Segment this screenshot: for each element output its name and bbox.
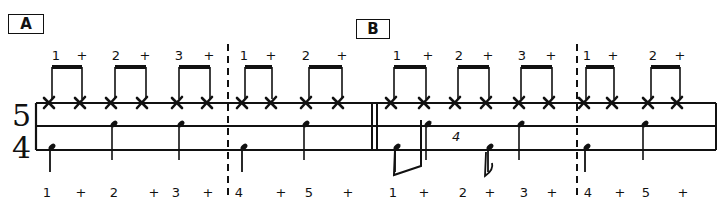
snare-notehead: [423, 119, 432, 128]
snare-notehead: [176, 119, 185, 128]
snare-notehead: [516, 119, 525, 128]
beat-count: +: [343, 185, 354, 200]
hihat-count: +: [546, 48, 557, 63]
hihat-count: 2: [302, 48, 310, 63]
hihat-count: 3: [518, 48, 526, 63]
hihat-count: +: [77, 48, 88, 63]
hihat-count: +: [608, 48, 619, 63]
hihat-count: 1: [393, 48, 401, 63]
hihat-count: +: [140, 48, 151, 63]
beat-count: +: [149, 185, 160, 200]
hihat-count: +: [337, 48, 348, 63]
hihat-count: 1: [583, 48, 591, 63]
time-signature-bottom: 4: [12, 130, 31, 165]
hihat-count: 2: [649, 48, 657, 63]
beat-count: 5: [642, 185, 650, 200]
hihat-count: 1: [240, 48, 248, 63]
beat-count: +: [547, 185, 558, 200]
beat-count: 3: [520, 185, 528, 200]
beat-count: 1: [43, 185, 51, 200]
snare-notehead: [640, 119, 649, 128]
hihat-count: +: [675, 48, 686, 63]
beat-count: +: [485, 185, 496, 200]
beat-count: 4: [235, 185, 243, 200]
hihat-count: +: [204, 48, 215, 63]
hihat-count: +: [483, 48, 494, 63]
beat-count: 1: [389, 185, 397, 200]
beat-count: 5: [305, 185, 313, 200]
beat-count: +: [419, 185, 430, 200]
hihat-count: 2: [112, 48, 120, 63]
beat-count: 3: [172, 185, 180, 200]
hihat-count: +: [423, 48, 434, 63]
beat-count: +: [203, 185, 214, 200]
time-signature-top: 5: [12, 98, 31, 133]
beat-count: 4: [584, 185, 592, 200]
hihat-count: 3: [175, 48, 183, 63]
annotation-4: 4: [452, 129, 460, 144]
snare-notehead: [301, 119, 310, 128]
beat-count: +: [276, 185, 287, 200]
snare-notehead: [109, 119, 118, 128]
beat-count: +: [678, 185, 689, 200]
hihat-count: +: [266, 48, 277, 63]
beat-count: +: [76, 185, 87, 200]
drum-notation-staff: 541+2+3+1+2+1+2+3+1+2+41+2+3+4+5+1+2+3+4…: [0, 0, 721, 205]
beat-count: 2: [459, 185, 467, 200]
beat-count: 2: [110, 185, 118, 200]
hihat-count: 1: [52, 48, 60, 63]
hihat-count: 2: [455, 48, 463, 63]
beat-count: +: [615, 185, 626, 200]
